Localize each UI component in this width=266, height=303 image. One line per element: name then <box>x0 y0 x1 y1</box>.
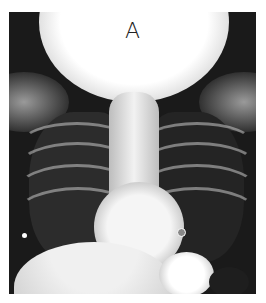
chest-xray-image: A <box>9 12 256 294</box>
stomach-contrast <box>159 252 214 294</box>
gas-bubble <box>209 267 249 294</box>
panel-label: A <box>9 18 256 43</box>
marker-ring <box>177 228 186 237</box>
marker-dot <box>22 233 27 238</box>
